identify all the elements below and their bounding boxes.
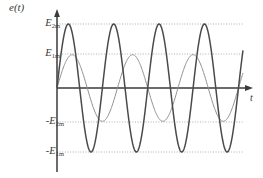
y-axis-label-text: e(t) <box>9 1 24 13</box>
x-axis-label: t <box>250 93 253 103</box>
tick-label-neg-E2m: -E2m <box>46 116 64 127</box>
x-axis-arrow <box>245 85 253 91</box>
tick-subscript: 1m <box>56 150 64 157</box>
tick-subscript: 2m <box>56 120 64 127</box>
tick-symbol: E <box>49 115 55 126</box>
axes <box>54 9 253 172</box>
tick-symbol: E <box>45 17 51 28</box>
plot-canvas <box>0 0 263 178</box>
tick-label-neg-E1m: -E1m <box>46 146 64 157</box>
tick-subscript: 2m <box>52 22 60 29</box>
y-axis-label: e(t) <box>9 2 24 13</box>
waveform-figure: e(t) t E2m E1m -E2m -E1m <box>0 0 263 178</box>
y-axis-arrow <box>54 9 60 17</box>
tick-label-E1m: E1m <box>45 48 60 59</box>
tick-symbol: E <box>49 145 55 156</box>
tick-subscript: 1m <box>52 52 60 59</box>
x-axis-label-text: t <box>250 92 253 103</box>
tick-label-E2m: E2m <box>45 18 60 29</box>
tick-symbol: E <box>45 47 51 58</box>
